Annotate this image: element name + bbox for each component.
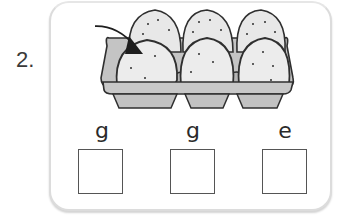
answer-box-3[interactable] xyxy=(262,149,307,194)
answer-box-1[interactable] xyxy=(78,149,123,194)
letter-2: g xyxy=(170,118,216,143)
egg-carton-illustration xyxy=(95,6,300,112)
letter-3: e xyxy=(262,118,308,143)
answer-box-2[interactable] xyxy=(170,149,215,194)
letter-1: g xyxy=(79,118,125,143)
question-number: 2. xyxy=(16,47,34,73)
